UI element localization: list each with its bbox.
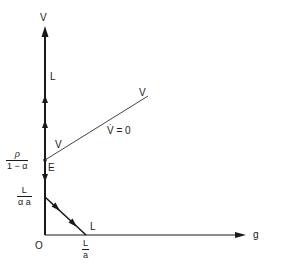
up-arrow-icon <box>42 120 48 128</box>
down-arrow-icon <box>42 174 48 182</box>
isocline-equation: V̇ = 0 <box>107 126 131 136</box>
x-axis-label: g <box>253 230 259 240</box>
frac-numerator: L <box>21 186 28 195</box>
isocline-end-label: V <box>139 88 146 98</box>
tick-rho-over-1-minus-alpha: ρ 1 − α <box>6 150 28 171</box>
diagonal-path-label: L <box>90 222 96 232</box>
diagonal-path <box>45 197 86 235</box>
frac-numerator: ρ <box>14 150 21 159</box>
y-axis-arrow-icon <box>42 26 49 37</box>
frac-numerator: L <box>82 239 89 248</box>
isocline-start-label: V <box>55 140 62 150</box>
tick-L-over-a: L a <box>82 239 89 260</box>
frac-denominator: 1 − α <box>6 162 28 171</box>
frac-denominator: α a <box>17 198 32 207</box>
isocline-line <box>45 96 148 160</box>
vertical-path-label: L <box>50 72 56 82</box>
phase-diagram <box>0 0 283 272</box>
up-arrow-icon <box>42 95 48 103</box>
frac-denominator: a <box>82 251 89 260</box>
origin-label: O <box>35 241 43 251</box>
x-axis-arrow-icon <box>235 232 246 238</box>
y-axis-label: V <box>40 13 47 23</box>
tick-L-over-alpha-a: L α a <box>17 186 32 207</box>
equilibrium-label: E <box>48 163 55 173</box>
